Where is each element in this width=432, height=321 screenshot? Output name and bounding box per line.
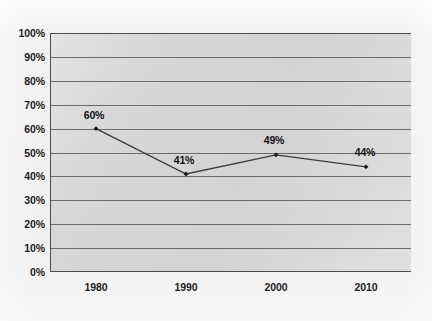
y-tick-label: 100%	[19, 27, 45, 39]
x-tick-label: 1990	[175, 281, 198, 293]
data-point-label: 41%	[174, 154, 195, 166]
y-tick-label: 70%	[24, 99, 45, 111]
y-tick-label: 80%	[24, 75, 45, 87]
data-point-marker	[364, 164, 369, 169]
y-tick-label: 0%	[30, 266, 45, 278]
chart-screenshot: 0%10%20%30%40%50%60%70%80%90%100% 198019…	[0, 0, 432, 321]
data-point-label: 49%	[264, 134, 285, 146]
y-tick-label: 90%	[24, 51, 45, 63]
plot-area: 0%10%20%30%40%50%60%70%80%90%100% 198019…	[50, 33, 411, 272]
x-tick-label: 2000	[265, 281, 288, 293]
x-tick-label: 2010	[355, 281, 378, 293]
data-point-label: 44%	[355, 146, 376, 158]
data-point-marker	[274, 152, 279, 157]
line-chart: 0%10%20%30%40%50%60%70%80%90%100% 198019…	[12, 10, 420, 310]
y-tick-label: 50%	[24, 147, 45, 159]
data-point-label: 60%	[84, 109, 105, 121]
y-tick-label: 10%	[24, 242, 45, 254]
y-tick-label: 20%	[24, 218, 45, 230]
y-tick-label: 40%	[24, 170, 45, 182]
x-tick-label: 1980	[85, 281, 108, 293]
y-tick-label: 60%	[24, 123, 45, 135]
data-point-marker	[94, 126, 99, 131]
series-polyline	[96, 129, 366, 174]
y-tick-label: 30%	[24, 194, 45, 206]
data-point-marker	[184, 172, 189, 177]
